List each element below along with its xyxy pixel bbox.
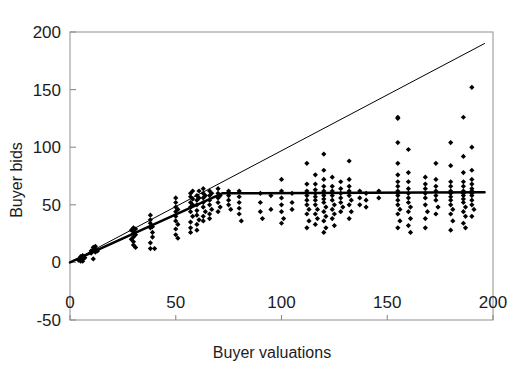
y-tick-label: 100 <box>33 138 61 157</box>
y-tick-label: 0 <box>52 253 61 272</box>
x-tick-label: 50 <box>166 293 185 312</box>
x-tick-label: 150 <box>373 293 401 312</box>
scatter-plot-figure: 050100150200 -50050100150200 Buyer valua… <box>0 0 513 376</box>
chart-canvas: 050100150200 -50050100150200 Buyer valua… <box>0 0 513 376</box>
x-tick-label: 0 <box>65 293 74 312</box>
y-axis-title: Buyer bids <box>8 142 25 218</box>
y-tick-label: 150 <box>33 81 61 100</box>
x-tick-label: 200 <box>479 293 507 312</box>
y-tick-label: -50 <box>36 311 61 330</box>
y-tick-label: 50 <box>42 196 61 215</box>
x-axis-title: Buyer valuations <box>213 344 331 361</box>
x-tick-label: 100 <box>267 293 295 312</box>
y-tick-label: 200 <box>33 23 61 42</box>
